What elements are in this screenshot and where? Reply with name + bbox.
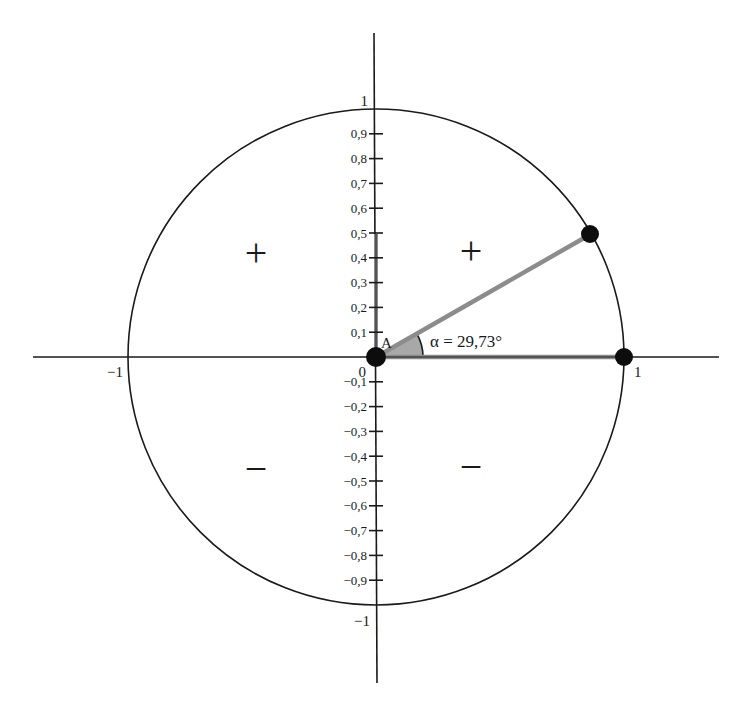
tick-label: 0,9 <box>351 126 367 141</box>
unit-circle-diagram: 0,1 0,2 0,3 0,4 0,5 0,6 0,7 0,8 0,9 −0,1… <box>0 0 744 711</box>
tick-label: 0,5 <box>351 226 367 241</box>
tick-label: −0,2 <box>343 399 367 414</box>
y-tick-labels-negative: −0,1 −0,2 −0,3 −0,4 −0,5 −0,6 −0,7 −0,8 … <box>343 374 367 588</box>
circle-point-dot <box>581 225 599 243</box>
x-intercept-dot <box>615 348 633 366</box>
tick-label: −0,6 <box>343 498 367 513</box>
tick-label: 0,2 <box>351 300 367 315</box>
quadrant-2-sign: + <box>245 230 268 275</box>
x-axis-max-label: 1 <box>634 364 642 380</box>
point-a-label: A <box>381 335 392 351</box>
tick-label: −0,4 <box>343 449 367 464</box>
tick-label: 0,7 <box>351 176 368 191</box>
tick-label: 0,3 <box>351 275 367 290</box>
tick-label: 0,8 <box>351 151 367 166</box>
tick-label: −0,3 <box>343 424 367 439</box>
quadrant-1-sign: + <box>460 228 483 273</box>
tick-label: 0,6 <box>351 201 368 216</box>
tick-label: −0,8 <box>343 548 367 563</box>
quadrant-4-sign: − <box>460 444 483 489</box>
origin-label: 0 <box>359 364 367 380</box>
origin-dot <box>366 347 386 367</box>
angle-label: α = 29,73° <box>430 332 502 351</box>
y-axis-top-label: 1 <box>361 93 369 109</box>
tick-label: −0,9 <box>343 573 367 588</box>
tick-label: 0,4 <box>351 250 368 265</box>
tick-label: −0,7 <box>343 523 367 538</box>
quadrant-3-sign: − <box>245 446 268 491</box>
tick-label: −0,5 <box>343 474 367 489</box>
tick-label: 0,1 <box>351 325 367 340</box>
y-tick-labels-positive: 0,1 0,2 0,3 0,4 0,5 0,6 0,7 0,8 0,9 <box>351 126 368 340</box>
x-axis-min-label: −1 <box>107 364 123 380</box>
y-axis-bottom-label: −1 <box>354 613 370 629</box>
